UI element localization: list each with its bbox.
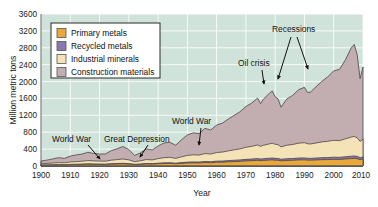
y-tick-1200: 1200: [19, 111, 38, 120]
x-tick-1940: 1940: [149, 171, 168, 180]
legend-label-industrial-minerals: Industrial minerals: [71, 54, 139, 64]
legend-swatch-construction-materials: [57, 68, 66, 77]
x-tick-1970: 1970: [237, 171, 256, 180]
x-tick-1900: 1900: [32, 171, 51, 180]
x-tick-1950: 1950: [178, 171, 197, 180]
annotation-world-war-2-label: World War: [172, 116, 211, 126]
legend-label-construction-materials: Construction materials: [71, 67, 154, 77]
y-tick-1600: 1600: [19, 94, 38, 103]
stacked-area-chart: 3600 3200 2800 2400 2000 1600 1200 800 4…: [0, 0, 378, 207]
legend-swatch-primary-metals: [57, 29, 66, 38]
annotation-recessions-label: Recessions: [272, 24, 315, 34]
y-tick-2000: 2000: [19, 78, 38, 87]
legend-swatch-recycled-metals: [57, 42, 66, 51]
annotation-great-depression-label: Great Depression: [104, 134, 170, 144]
y-tick-0: 0: [32, 162, 37, 171]
y-tick-2400: 2400: [19, 61, 38, 70]
chart-legend: Primary metals Recycled metals Industria…: [51, 23, 160, 78]
x-tick-1910: 1910: [61, 171, 80, 180]
y-tick-3200: 3200: [19, 27, 38, 36]
x-axis-title: Year: [193, 188, 211, 198]
annotation-oil-crisis-label: Oil crisis: [238, 58, 270, 68]
x-tick-1990: 1990: [295, 171, 314, 180]
y-tick-3600: 3600: [19, 10, 38, 19]
x-tick-1920: 1920: [90, 171, 109, 180]
legend-label-recycled-metals: Recycled metals: [71, 41, 132, 51]
x-tick-1980: 1980: [266, 171, 285, 180]
y-tick-2800: 2800: [19, 44, 38, 53]
legend-swatch-industrial-minerals: [57, 55, 66, 64]
x-tick-2000: 2000: [325, 171, 344, 180]
annotation-world-war-1-label: World War: [52, 134, 91, 144]
x-tick-1930: 1930: [120, 171, 139, 180]
x-tick-2010: 2010: [352, 171, 371, 180]
chart-figure: 3600 3200 2800 2400 2000 1600 1200 800 4…: [0, 0, 378, 207]
y-tick-800: 800: [23, 128, 37, 137]
x-tick-1960: 1960: [207, 171, 226, 180]
y-tick-400: 400: [23, 145, 37, 154]
legend-label-primary-metals: Primary metals: [71, 28, 127, 38]
y-axis-title: Million metric tons: [8, 56, 18, 125]
